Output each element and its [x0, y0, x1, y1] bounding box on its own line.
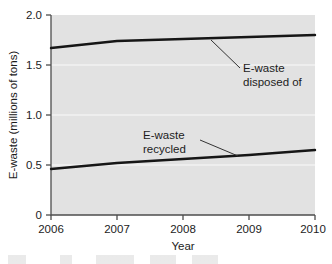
x-axis-title: Year [171, 240, 194, 252]
annotation-disposed-line1: E-waste [243, 62, 285, 74]
annotation-recycled-line2: recycled [143, 143, 186, 155]
annotation-disposed-line2: disposed of [243, 76, 303, 88]
xtick-label-2009: 2009 [236, 223, 262, 235]
y-tick-labels: 2.0 1.5 1.0 0.5 0 [26, 9, 42, 221]
xtick-label-2008: 2008 [170, 223, 196, 235]
ytick-label-0-5: 0.5 [26, 159, 42, 171]
ytick-label-1-5: 1.5 [26, 59, 42, 71]
ytick-label-1-0: 1.0 [26, 109, 42, 121]
ytick-label-0: 0 [36, 209, 42, 221]
ewaste-line-chart-figure: 2.0 1.5 1.0 0.5 0 2006 2007 2008 2009 20… [0, 0, 332, 264]
xtick-label-2010: 2010 [300, 223, 326, 235]
page-text-bleed [0, 255, 332, 264]
chart-svg: 2.0 1.5 1.0 0.5 0 2006 2007 2008 2009 20… [0, 0, 332, 264]
y-axis-title: E-waste (millions of tons) [7, 51, 19, 180]
annotation-recycled-line1: E-waste [143, 129, 185, 141]
xtick-label-2007: 2007 [104, 223, 130, 235]
ytick-label-2-0: 2.0 [26, 9, 42, 21]
xtick-label-2006: 2006 [38, 223, 64, 235]
x-tick-labels: 2006 2007 2008 2009 2010 [38, 223, 326, 235]
